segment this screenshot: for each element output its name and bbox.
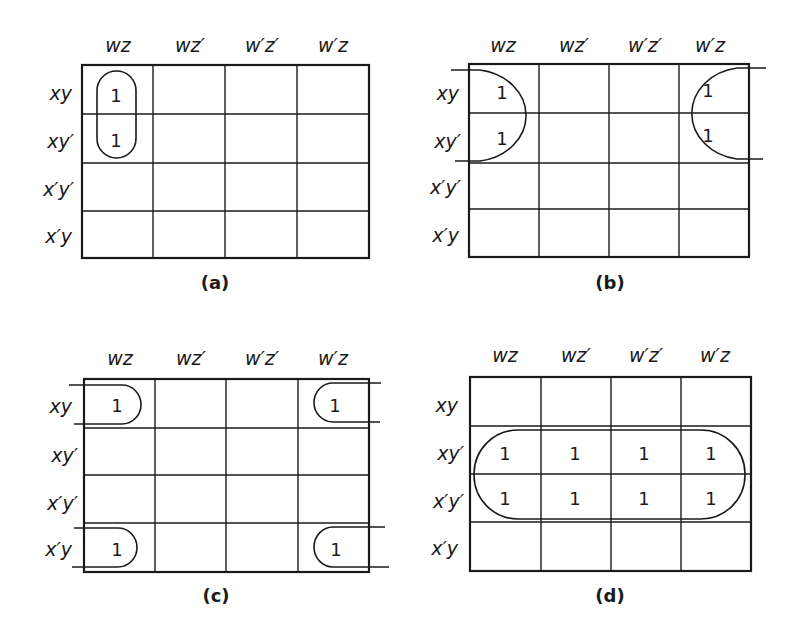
cell-value: 1 (499, 488, 510, 509)
row-header-xprime-yprime: x′y′ (42, 178, 75, 200)
grouping-loop-bottom-right (314, 527, 389, 567)
row-header-xprime-y: x′y (431, 224, 460, 246)
col-header-wz-prime: wz′ (559, 34, 590, 56)
row-header-xprime-y: x′y (44, 225, 73, 247)
cell-value: 1 (638, 443, 649, 464)
kmap-d: wz wz′ w′z′ w′z xy xy′ x′y′ x′y 1 1 1 1 … (430, 344, 751, 606)
row-header-xy: xy (436, 82, 460, 104)
col-header-wprime-z: w′z (700, 344, 731, 366)
row-header-xy-prime: xy′ (433, 130, 461, 152)
caption-b: (b) (595, 272, 624, 293)
cell-value: 1 (569, 488, 580, 509)
grouping-loop-top-right (314, 383, 381, 422)
col-header-wprime-z: w′z (695, 34, 726, 56)
col-header-wz-prime: wz′ (561, 344, 592, 366)
kmap-c: wz wz′ w′z′ w′z xy xy′ x′y′ x′y 1 1 1 1 … (44, 347, 389, 606)
col-header-wz: wz (105, 34, 132, 56)
col-header-wprime-zprime: w′z′ (245, 34, 280, 56)
karnaugh-maps-figure: wz wz′ w′z′ w′z xy xy′ x′y′ x′y 1 1 (a) … (0, 0, 794, 633)
caption-d: (d) (595, 585, 624, 606)
row-header-xy-prime: xy′ (46, 130, 74, 152)
cell-value: 1 (638, 488, 649, 509)
col-header-wprime-zprime: w′z′ (628, 34, 663, 56)
col-header-wz: wz (490, 34, 517, 56)
cell-value: 1 (110, 85, 121, 106)
row-header-xprime-yprime: x′y′ (429, 176, 462, 198)
row-header-xy: xy (49, 82, 73, 104)
col-header-wz-prime: wz′ (175, 34, 206, 56)
col-header-wprime-zprime: w′z′ (245, 347, 280, 369)
col-header-wprime-z: w′z (318, 347, 349, 369)
cell-value: 1 (110, 130, 121, 151)
caption-a: (a) (201, 272, 230, 293)
cell-value: 1 (111, 539, 122, 560)
row-header-xy-prime: xy′ (436, 442, 464, 464)
grouping-loop-bottom-left (72, 528, 137, 567)
cell-value: 1 (569, 443, 580, 464)
kmap-b: wz wz′ w′z′ w′z xy xy′ x′y′ x′y 1 1 1 1 … (429, 34, 766, 293)
col-header-wz: wz (492, 344, 519, 366)
cell-value: 1 (496, 128, 507, 149)
cell-value: 1 (705, 443, 716, 464)
cell-value: 1 (111, 395, 122, 416)
row-header-xy-prime: xy′ (50, 444, 78, 466)
cell-value: 1 (330, 539, 341, 560)
cell-value: 1 (499, 443, 510, 464)
caption-c: (c) (202, 585, 229, 606)
row-header-xprime-y: x′y (44, 538, 73, 560)
row-header-xprime-yprime: x′y′ (432, 490, 465, 512)
cell-value: 1 (705, 488, 716, 509)
row-header-xy: xy (49, 395, 73, 417)
col-header-wz: wz (107, 347, 134, 369)
grouping-loop-top-left (69, 385, 141, 424)
row-header-xprime-y: x′y (430, 537, 459, 559)
col-header-wz-prime: wz′ (176, 347, 207, 369)
col-header-wprime-z: w′z (318, 34, 349, 56)
row-header-xprime-yprime: x′y′ (46, 492, 79, 514)
grouping-loop-left (451, 70, 526, 161)
kmap-a: wz wz′ w′z′ w′z xy xy′ x′y′ x′y 1 1 (a) (42, 34, 369, 293)
row-header-xy: xy (435, 394, 459, 416)
cell-value: 1 (329, 395, 340, 416)
cell-value: 1 (496, 82, 507, 103)
col-header-wprime-zprime: w′z′ (629, 344, 664, 366)
